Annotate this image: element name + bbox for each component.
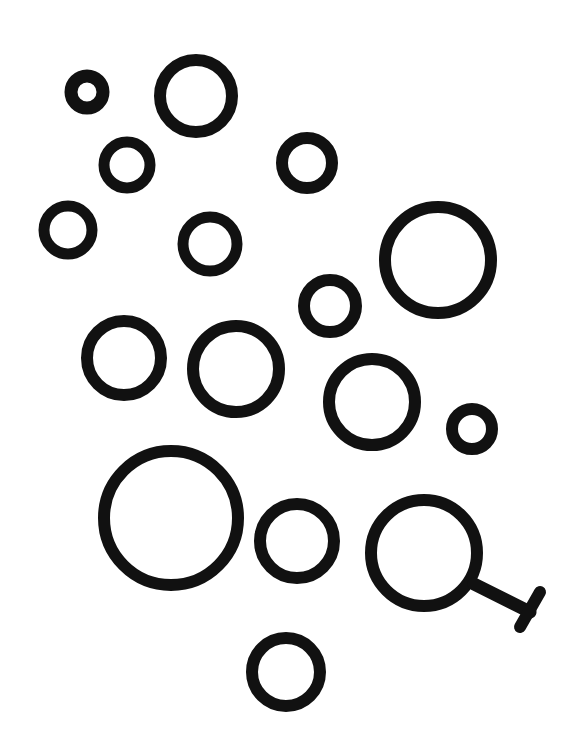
circles-drawing	[0, 0, 580, 737]
